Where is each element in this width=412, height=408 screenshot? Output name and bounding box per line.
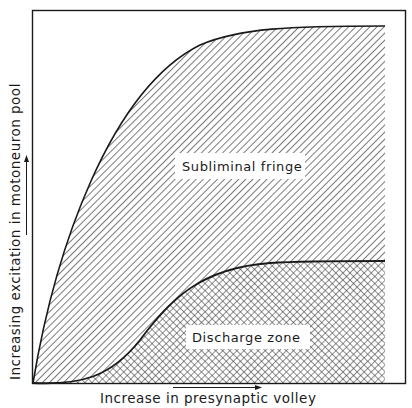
- x-axis-label: Increase in presynaptic volley: [100, 390, 316, 406]
- y-axis-label: Increasing excitation in motoneuron pool: [7, 83, 23, 380]
- subliminal-fringe-label: Subliminal fringe: [182, 159, 302, 174]
- diagram: Subliminal fringe Discharge zone Increas…: [0, 0, 412, 408]
- y-axis-arrowhead-icon: [24, 155, 29, 162]
- discharge-zone-label: Discharge zone: [192, 330, 301, 345]
